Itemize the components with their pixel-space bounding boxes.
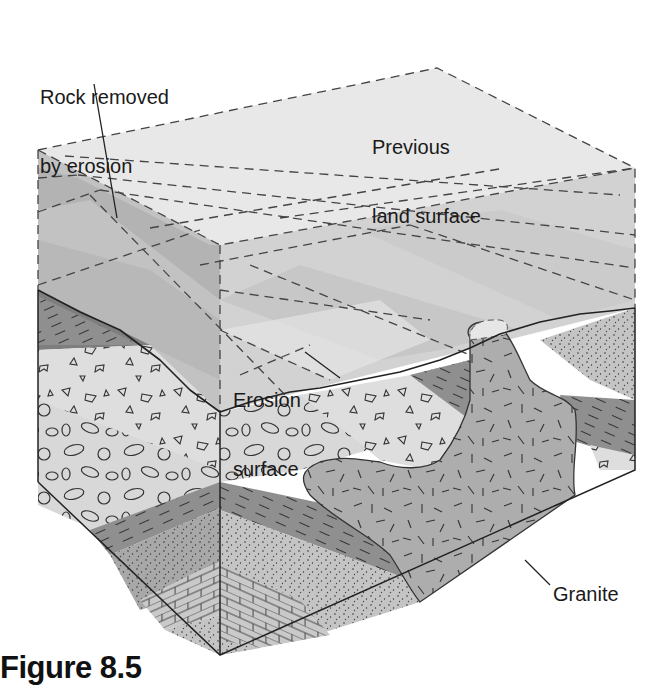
figure-caption: Figure 8.5 (0, 650, 141, 686)
label-line: surface (233, 458, 301, 481)
label-previous-land-surface: Previous land surface (372, 90, 481, 251)
label-granite: Granite (553, 583, 619, 606)
label-line: Rock removed (40, 86, 169, 109)
label-line: Previous (372, 136, 481, 159)
label-rock-removed: Rock removed by erosion (40, 40, 169, 201)
label-line: Erosion (233, 389, 301, 412)
label-erosion-surface: Erosion surface (233, 343, 301, 504)
label-line: land surface (372, 205, 481, 228)
label-line: by erosion (40, 155, 169, 178)
